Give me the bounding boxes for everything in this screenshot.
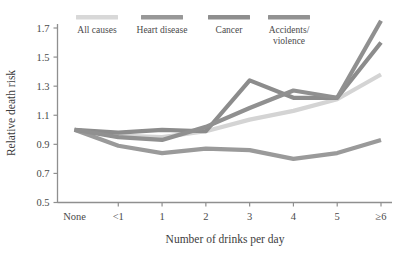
legend-swatch-accidents-violence: [268, 15, 310, 20]
y-tick-label: 1.1: [36, 110, 49, 121]
legend-label-cancer: Cancer: [216, 25, 244, 35]
legend-item-all-causes: All causes: [76, 15, 118, 35]
y-tick-label: 1.7: [36, 23, 49, 34]
legend-swatch-cancer: [208, 15, 250, 20]
legend-label-heart-disease: Heart disease: [137, 25, 188, 35]
legend-label-all-causes: All causes: [77, 25, 117, 35]
legend-item-heart-disease: Heart disease: [137, 15, 188, 35]
y-axis-title: Relative death risk: [5, 70, 17, 156]
x-tick-label: 3: [247, 211, 252, 222]
legend-swatch-all-causes: [76, 15, 118, 20]
y-tick-label: 1.3: [36, 81, 49, 92]
x-tick-label: ≥6: [375, 211, 386, 222]
legend-label-accidents-violence: Accidents/: [269, 25, 310, 35]
relative-death-risk-line-chart: All causes Heart disease Cancer Accident…: [0, 0, 400, 253]
x-tick-label: 4: [291, 211, 297, 222]
x-tick-label: 2: [203, 211, 208, 222]
x-tick-label: None: [63, 211, 86, 222]
x-tick-label: 5: [335, 211, 340, 222]
y-tick-label: 1.5: [36, 52, 49, 63]
y-tick-label: 0.9: [36, 139, 49, 150]
legend-swatch-heart-disease: [141, 15, 183, 20]
y-tick-label: 0.7: [36, 168, 49, 179]
legend-label-accidents-violence-line2: violence: [273, 36, 305, 46]
x-axis-title: Number of drinks per day: [166, 233, 285, 246]
chart-figure: All causes Heart disease Cancer Accident…: [0, 0, 400, 253]
x-tick-label: 1: [159, 211, 164, 222]
x-tick-label: <1: [113, 211, 124, 222]
y-tick-label: 0.5: [36, 197, 49, 208]
